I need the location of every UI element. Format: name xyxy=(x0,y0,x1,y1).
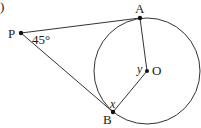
angle-P-label: 45° xyxy=(32,32,50,47)
angle-y-label: y xyxy=(136,62,143,76)
tangent-PA xyxy=(21,18,140,33)
point-O-dot xyxy=(145,69,149,73)
angle-x-label: x xyxy=(109,97,116,111)
point-P-dot xyxy=(19,31,23,35)
tangent-circle-diagram: ) P A B O 45° x y xyxy=(0,0,201,128)
point-A-dot xyxy=(138,16,142,20)
label-O: O xyxy=(152,63,161,78)
label-P: P xyxy=(8,26,15,41)
label-B: B xyxy=(103,112,112,127)
radius-OB xyxy=(113,71,147,112)
label-A: A xyxy=(135,1,145,16)
part-label: ) xyxy=(0,0,4,14)
